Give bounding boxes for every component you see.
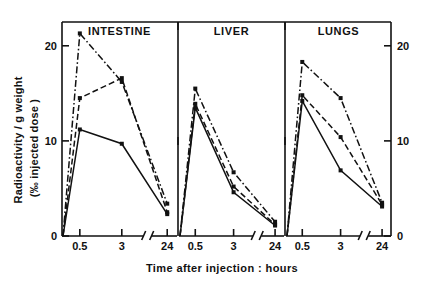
data-point-marker bbox=[193, 106, 197, 110]
x-tick-label: 0.5 bbox=[295, 240, 310, 252]
y-tick-label-left: 0 bbox=[51, 230, 57, 242]
y-tick-label-right: 10 bbox=[397, 135, 409, 147]
data-point-marker bbox=[232, 190, 236, 194]
y-tick-label-left: 20 bbox=[45, 40, 57, 52]
data-point-marker bbox=[193, 102, 197, 106]
data-point-marker bbox=[300, 93, 304, 97]
series-line-series-1 bbox=[287, 62, 382, 236]
data-point-marker bbox=[339, 168, 343, 172]
series-line-series-3 bbox=[63, 129, 167, 236]
data-point-marker bbox=[165, 212, 169, 216]
x-tick-label: 3 bbox=[231, 240, 237, 252]
data-point-marker bbox=[120, 142, 124, 146]
series-line-series-2 bbox=[63, 78, 167, 236]
series-line-series-2 bbox=[180, 104, 275, 236]
panel-title: INTESTINE bbox=[88, 25, 151, 37]
y-tick-label-right: 20 bbox=[397, 40, 409, 52]
x-tick-label: 3 bbox=[338, 240, 344, 252]
y-axis-label: Radioactivity / g weight (‰ injected dos… bbox=[12, 76, 40, 203]
data-point-marker bbox=[380, 205, 384, 209]
y-tick-label-left: 10 bbox=[45, 135, 57, 147]
data-point-marker bbox=[300, 99, 304, 103]
data-point-marker bbox=[300, 60, 304, 64]
x-tick-label: 0.5 bbox=[72, 240, 87, 252]
data-point-marker bbox=[339, 96, 343, 100]
data-point-marker bbox=[120, 76, 124, 80]
radioactivity-time-course-figure: Radioactivity / g weight (‰ injected dos… bbox=[0, 0, 431, 283]
y-axis-label-line1: Radioactivity / g weight bbox=[12, 76, 24, 203]
x-tick-label: 24 bbox=[376, 240, 389, 252]
plot-area: 00101020200.5324INTESTINE0.5324LIVER0.53… bbox=[45, 22, 410, 252]
data-point-marker bbox=[232, 170, 236, 174]
chart-svg: Radioactivity / g weight (‰ injected dos… bbox=[0, 0, 431, 283]
data-point-marker bbox=[339, 135, 343, 139]
x-tick-label: 0.5 bbox=[188, 240, 203, 252]
data-point-marker bbox=[273, 224, 277, 228]
x-tick-label: 24 bbox=[161, 240, 174, 252]
y-axis-label-line2: (‰ injected dose ) bbox=[28, 99, 40, 197]
data-point-marker bbox=[78, 127, 82, 131]
panel-intestine: 0.5324INTESTINE bbox=[62, 25, 177, 252]
data-point-marker bbox=[78, 96, 82, 100]
x-tick-label: 24 bbox=[269, 240, 282, 252]
x-tick-label: 3 bbox=[119, 240, 125, 252]
x-axis-label: Time after injection : hours bbox=[146, 262, 298, 274]
data-point-marker bbox=[165, 202, 169, 206]
panel-title: LIVER bbox=[214, 25, 249, 37]
panel-title: LUNGS bbox=[318, 25, 360, 37]
panel-liver: 0.5324LIVER bbox=[178, 22, 284, 252]
data-point-marker bbox=[78, 31, 82, 35]
panel-lungs: 0.5324LUNGS bbox=[285, 22, 391, 252]
y-tick-label-right: 0 bbox=[397, 230, 403, 242]
data-point-marker bbox=[193, 87, 197, 91]
